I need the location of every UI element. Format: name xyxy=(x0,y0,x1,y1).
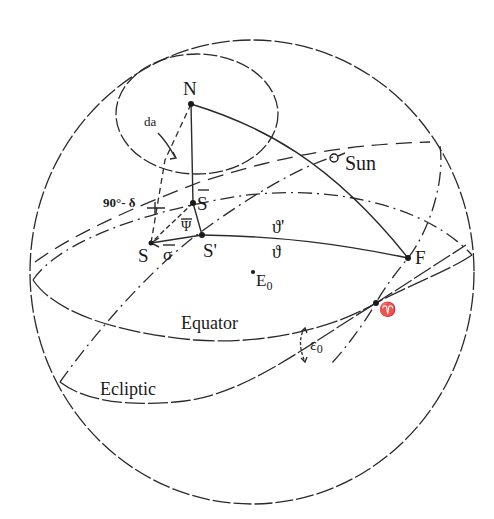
label-f: F xyxy=(415,247,426,268)
label-theta: ϑ xyxy=(272,242,281,262)
da-arrowhead xyxy=(170,152,176,159)
label-theta-prime: ϑ' xyxy=(272,217,284,237)
equator-line xyxy=(33,255,472,341)
label-colatitude: 90°- δ xyxy=(103,195,136,210)
north-pole-point xyxy=(188,101,194,107)
label-s: S xyxy=(138,245,149,266)
n-to-sbar-line xyxy=(191,104,202,235)
colure-back-line xyxy=(60,157,333,382)
label-psi-bar: Ψ xyxy=(181,219,192,234)
label-equator: Equator xyxy=(181,313,238,333)
celestial-sphere-diagram: N da 90°- δ S Ψ S σ S' ϑ' ϑ Sun F E0 Equ… xyxy=(0,0,494,519)
label-e0: E0 xyxy=(256,271,272,293)
sprime-to-f-arc xyxy=(202,235,408,258)
f-point xyxy=(405,255,411,261)
label-vernal-equinox: ♈ xyxy=(379,301,396,318)
label-north-pole: N xyxy=(183,78,197,99)
label-da: da xyxy=(144,114,157,129)
label-ecliptic: Ecliptic xyxy=(100,379,156,399)
label-sun: Sun xyxy=(345,152,376,174)
s-point xyxy=(149,241,154,246)
label-s-prime: S' xyxy=(203,240,217,261)
e0-point xyxy=(251,270,255,274)
sprime-point xyxy=(199,232,205,238)
label-s-bar: S xyxy=(197,193,208,214)
sun-icon-tail xyxy=(338,153,345,156)
epsilon-arc xyxy=(300,328,305,362)
sun-icon xyxy=(330,154,338,162)
sbar-point xyxy=(190,200,196,206)
label-sigma-bar: σ xyxy=(163,245,172,264)
